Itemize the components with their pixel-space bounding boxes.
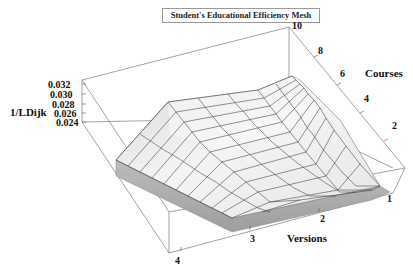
x-tick-1: 1 [387,193,392,204]
y-axis-title: Courses [365,67,403,79]
y-tick-6: 6 [340,68,345,79]
x-tick-2: 2 [320,213,325,224]
z-tick-0024: 0.024 [56,117,79,128]
y-tick-10: 10 [292,20,302,31]
x-tick-4: 4 [175,255,180,266]
x-tick-3: 3 [250,233,255,244]
z-axis-title: 1/LDijk [10,106,47,118]
y-tick-8: 8 [318,45,323,56]
y-tick-2: 2 [392,120,397,131]
mesh-plot [0,0,413,271]
x-axis-title: Versions [287,232,327,244]
y-tick-4: 4 [364,93,369,104]
